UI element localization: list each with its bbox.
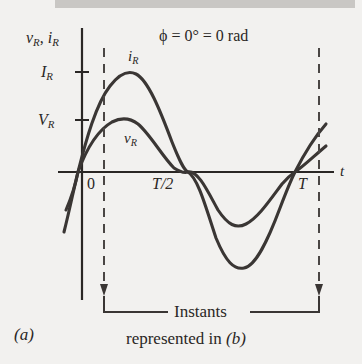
figure-container: vR, iR IR VR ϕ = 0° = 0 rad iR vR 0 T/2 … — [0, 0, 362, 364]
x-tick-label-T: T — [298, 176, 307, 192]
curve-label-vR-main: v — [124, 130, 131, 146]
x-tick-label-0: 0 — [87, 176, 95, 192]
y-axis-label-v-sub: R — [33, 36, 40, 48]
caption-panel-reference: (b) — [226, 329, 246, 348]
y-tick-label-IR-sub: R — [46, 70, 53, 82]
y-tick-label-VR-sub: R — [48, 118, 55, 130]
y-axis-label: vR, iR — [26, 30, 59, 46]
curve-label-iR: iR — [128, 49, 138, 64]
panel-label-a: (a) — [14, 326, 34, 343]
curve-label-vR-sub: R — [131, 137, 137, 148]
y-tick-label-VR: VR — [38, 112, 54, 128]
curve-label-vR: vR — [124, 131, 137, 146]
x-axis-label: t — [340, 164, 344, 179]
y-tick-label-IR: IR — [41, 64, 53, 80]
phase-annotation: ϕ = 0° = 0 rad — [159, 28, 248, 44]
top-gray-band — [55, 0, 355, 8]
curve-label-iR-sub: R — [132, 55, 138, 66]
caption-represented-prefix: represented in — [126, 329, 226, 348]
x-tick-label-T-over-2: T/2 — [152, 176, 173, 192]
arrowhead-left — [100, 284, 108, 296]
arrowhead-right — [315, 284, 323, 296]
y-axis-label-separator: , — [40, 29, 48, 46]
caption-represented-in: represented in (b) — [126, 330, 246, 347]
y-axis-label-i-sub: R — [52, 36, 59, 48]
caption-instants: Instants — [174, 303, 227, 320]
y-tick-label-VR-main: V — [38, 111, 48, 128]
